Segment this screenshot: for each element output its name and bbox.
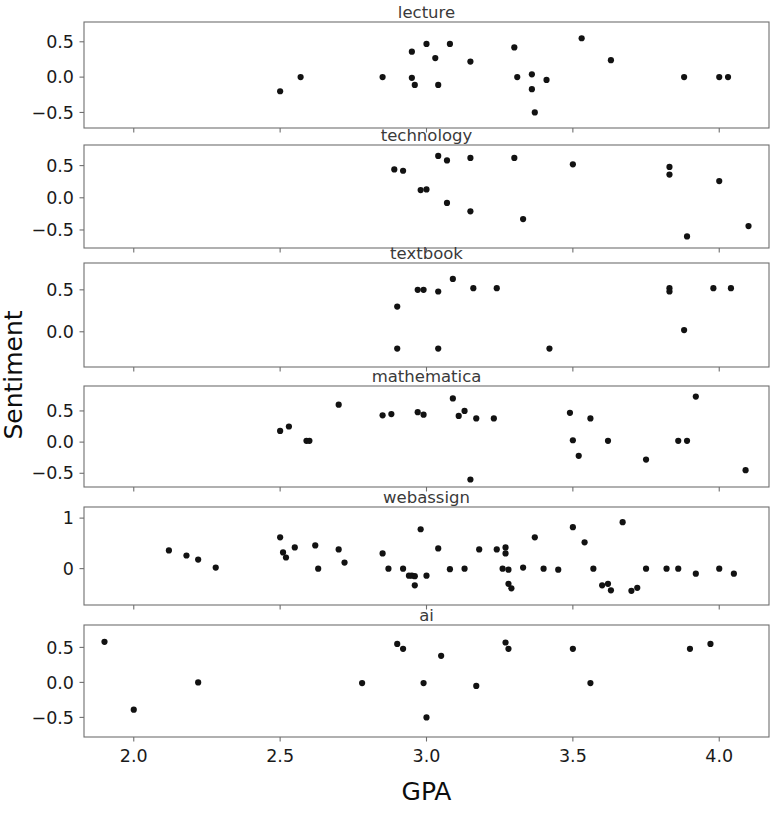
data-point [529,71,535,77]
data-point [663,566,669,572]
y-tick-label: 0.5 [46,156,74,176]
data-point [620,519,626,525]
x-tick-label: 2.0 [120,746,148,766]
scatter-figure-panel-grid: 0.50.0−0.5lecture0.50.0−0.5technology0.5… [0,0,776,817]
data-point [423,41,429,47]
data-point [567,410,573,416]
data-point [467,208,473,214]
data-point [520,565,526,571]
y-tick-label: 0.5 [46,280,74,300]
data-point [590,566,596,572]
data-point [379,412,385,418]
data-point [315,566,321,572]
data-point [418,526,424,532]
subplot-panel-textbook: 0.50.0textbook [46,244,769,367]
data-point [570,646,576,652]
data-point [555,567,561,573]
y-tick-label: 0.5 [46,32,74,52]
data-point [502,550,508,556]
subplot-panel-mathematica: 0.50.0−0.5mathematica [32,367,770,487]
data-point [292,544,298,550]
data-point [435,82,441,88]
data-point [409,75,415,81]
data-point [511,155,517,161]
data-point [502,544,508,550]
data-point [101,639,107,645]
data-point [693,394,699,400]
data-point [605,581,611,587]
data-point [341,559,347,565]
data-point [532,109,538,115]
data-point [435,153,441,159]
data-point [423,186,429,192]
data-point [444,157,450,163]
data-point [500,566,506,572]
y-tick-label: 0.0 [46,322,74,342]
data-point [587,415,593,421]
data-point [728,285,734,291]
y-tick-label: 0 [63,559,74,579]
y-tick-label: −0.5 [32,463,75,483]
x-tick-label: 4.0 [705,746,733,766]
data-point [195,679,201,685]
data-point [131,707,137,713]
y-tick-label: 0.0 [46,432,74,452]
data-point [502,639,508,645]
data-point [570,161,576,167]
data-point [491,415,497,421]
data-point [306,438,312,444]
panel-title-textbook: textbook [390,244,463,263]
data-point [745,223,751,229]
data-point [529,86,535,92]
y-tick-label: 0.0 [46,67,74,87]
data-point [391,166,397,172]
data-point [546,345,552,351]
data-point [570,524,576,530]
data-point [385,566,391,572]
data-point [508,585,514,591]
data-point [412,582,418,588]
data-point [379,550,385,556]
data-point [166,547,172,553]
y-tick-label: −0.5 [32,103,75,123]
data-point [435,288,441,294]
data-point [450,276,456,282]
data-point [400,566,406,572]
data-point [666,164,672,170]
data-point [494,546,500,552]
data-point [643,566,649,572]
data-point [666,172,672,178]
x-tick-label: 3.0 [413,746,441,766]
data-point [707,641,713,647]
data-point [400,168,406,174]
data-point [450,395,456,401]
data-point [298,74,304,80]
data-point [742,467,748,473]
data-point [400,646,406,652]
subplot-panel-ai: 0.50.0−0.5ai [32,606,770,737]
data-point [608,57,614,63]
data-point [675,566,681,572]
data-point [511,44,517,50]
subplot-panel-lecture: 0.50.0−0.5lecture [32,3,770,128]
data-point [423,573,429,579]
data-point [195,556,201,562]
data-point [473,415,479,421]
data-point [420,287,426,293]
data-point [681,74,687,80]
data-point [570,437,576,443]
data-point [470,285,476,291]
data-point [388,411,394,417]
data-point [420,412,426,418]
subplot-panel-webassign: 10webassign [63,488,769,605]
y-tick-label: −0.5 [32,708,75,728]
panel-title-lecture: lecture [398,3,455,22]
data-point [447,566,453,572]
data-point [456,413,462,419]
data-point [581,539,587,545]
data-point [576,453,582,459]
data-point [684,438,690,444]
multi-panel-scatter-plot: 0.50.0−0.5lecture0.50.0−0.5technology0.5… [0,0,776,817]
data-point [183,552,189,558]
data-point [438,653,444,659]
